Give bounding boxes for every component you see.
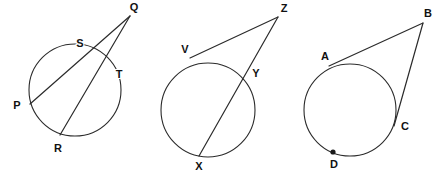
point-label-v: V <box>181 43 189 55</box>
secant-q-s-p <box>30 16 130 104</box>
circle-outline-right <box>304 64 396 156</box>
point-label-r: R <box>54 142 62 154</box>
point-label-t: T <box>116 68 123 80</box>
tangent-b-c <box>394 23 423 126</box>
geometry-diagram: Q P S T R Z V Y X B A C D <box>0 0 445 184</box>
circle-outline-middle <box>161 63 255 157</box>
point-label-s: S <box>76 37 83 49</box>
secant-z-y-x <box>199 17 278 156</box>
point-label-z: Z <box>281 2 288 14</box>
point-label-b: B <box>424 7 432 19</box>
circle-outline-left <box>29 44 121 136</box>
figure-right: B A C D <box>304 7 432 170</box>
point-label-d: D <box>330 158 338 170</box>
point-label-x: X <box>195 160 203 172</box>
tangent-b-a <box>329 23 423 66</box>
point-label-a: A <box>321 50 329 62</box>
point-label-q: Q <box>130 1 139 13</box>
point-label-y: Y <box>252 67 260 79</box>
figure-middle: Z V Y X <box>161 2 288 172</box>
point-dot-d <box>330 149 335 154</box>
figure-left: Q P S T R <box>13 1 138 154</box>
point-label-c: C <box>401 120 409 132</box>
diagram-canvas: Q P S T R Z V Y X B A C D <box>0 0 445 184</box>
point-label-p: P <box>13 99 20 111</box>
tangent-z-v <box>190 17 278 58</box>
